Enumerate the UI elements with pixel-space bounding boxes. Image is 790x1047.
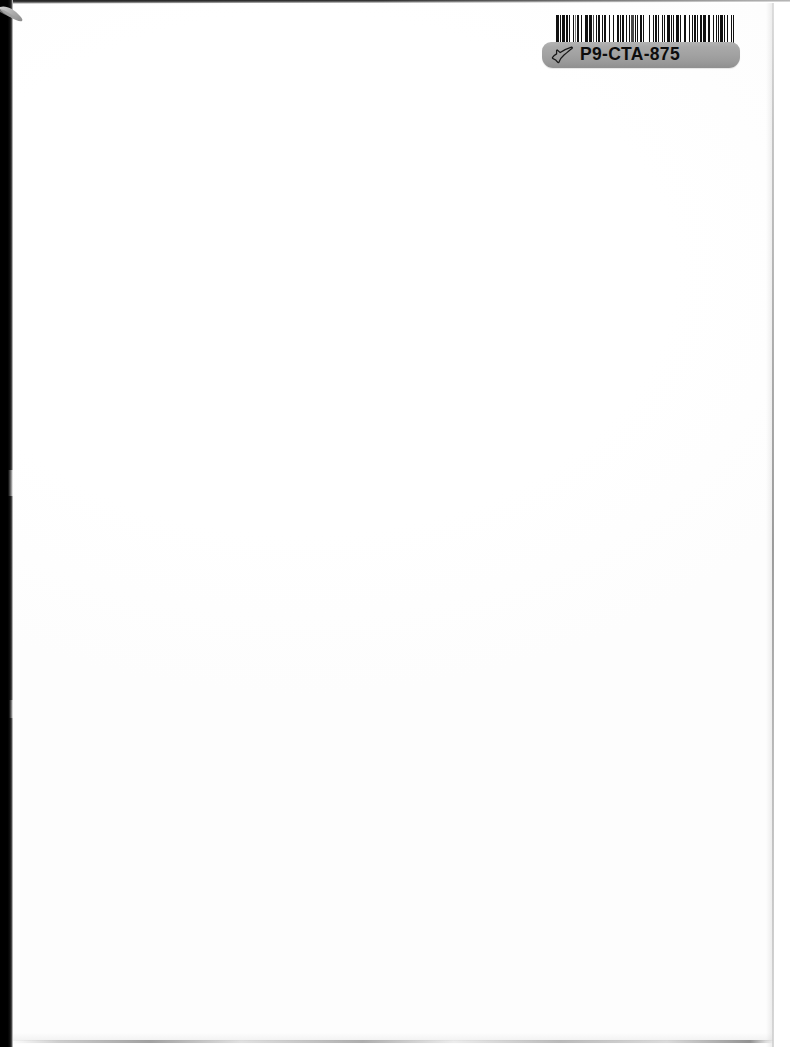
- barcode: [556, 15, 736, 44]
- scanner-top-shadow-fade: [380, 0, 790, 4]
- asset-tag-label: P9-CTA-875: [542, 42, 740, 68]
- page-bottom-edge-line: [13, 1040, 773, 1043]
- page-right-edge-line: [772, 3, 774, 1047]
- scanner-left-shadow: [0, 0, 13, 1047]
- asset-tag-identifier: P9-CTA-875: [580, 46, 680, 64]
- paper-surface: [12, 3, 774, 1044]
- scanner-left-shadow-nick: [8, 470, 13, 496]
- barcode-bars: [556, 15, 736, 44]
- paper-curl-artifact: [0, 4, 34, 26]
- barcode-space: [734, 15, 735, 44]
- pointing-hand-icon: [551, 46, 573, 64]
- scanned-page: P9-CTA-875: [0, 0, 790, 1047]
- scanner-left-shadow-nick: [9, 700, 13, 718]
